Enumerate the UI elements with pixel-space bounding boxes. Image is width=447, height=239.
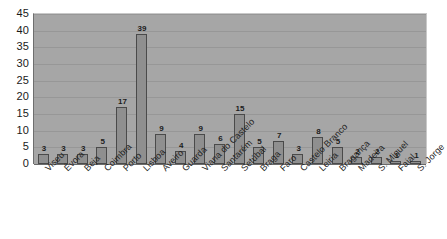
x-label-slot: Bragança [327, 164, 347, 165]
x-label-slot: Leiria [307, 164, 327, 165]
bar-slot: 3 [54, 14, 74, 164]
y-tick-label: 0 [0, 158, 29, 169]
x-label-slot: Braga [249, 164, 269, 165]
bar-slot: 4 [171, 14, 191, 164]
x-label-slot: Castelo Branco [288, 164, 308, 165]
y-tick-label: 5 [0, 141, 29, 152]
bar-slot: 3 [34, 14, 54, 164]
bar-slot: 1 [406, 14, 426, 164]
x-label-slot: Porto [111, 164, 131, 165]
x-label-slot: Guarda [170, 164, 190, 165]
bar-slot: 5 [250, 14, 270, 164]
y-tick-label: 30 [0, 58, 29, 69]
bar-slot: 2 [367, 14, 387, 164]
bar-slot: 5 [93, 14, 113, 164]
x-label-slot: Faro [268, 164, 288, 165]
x-label-slot: S. Jorge [405, 164, 425, 165]
y-tick-label: 25 [0, 74, 29, 85]
x-label-slot: Viseu [33, 164, 53, 165]
x-label-slot: Madeira [347, 164, 367, 165]
x-label-slot: Faial [386, 164, 406, 165]
y-tick-label: 35 [0, 41, 29, 52]
bar-slot: 39 [132, 14, 152, 164]
bar-slot: 7 [269, 14, 289, 164]
x-label-slot: Viana do Castelo [190, 164, 210, 165]
x-label-slot: Aveiro [151, 164, 171, 165]
x-label-slot: Setúbal [229, 164, 249, 165]
bar [136, 34, 147, 164]
bar-slot: 3 [289, 14, 309, 164]
x-label-slot: Évora [53, 164, 73, 165]
x-axis-labels: ViseuÉvoraBejaCoimbraPortoLisboaAveiroGu… [33, 164, 425, 239]
x-label-slot: Lisboa [131, 164, 151, 165]
x-label-slot: S. Miguel [366, 164, 386, 165]
x-label-slot: Coimbra [92, 164, 112, 165]
y-tick-label: 20 [0, 91, 29, 102]
x-label-slot: Santarém [209, 164, 229, 165]
y-tick-label: 45 [0, 8, 29, 19]
bar-slot: 17 [112, 14, 132, 164]
y-axis: 454035302520151050 [0, 13, 29, 163]
y-tick-label: 15 [0, 108, 29, 119]
x-label-slot: Beja [72, 164, 92, 165]
y-tick-label: 40 [0, 24, 29, 35]
y-tick-label: 10 [0, 124, 29, 135]
